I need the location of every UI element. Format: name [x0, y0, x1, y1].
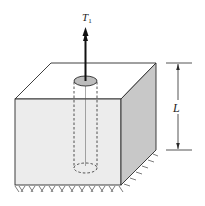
block-front-face [15, 99, 121, 185]
force-label: T1 [82, 11, 92, 25]
block-diagram: T1 L [0, 0, 205, 206]
dimension-arrow-up [176, 64, 180, 70]
dimension-arrow-down [176, 143, 180, 149]
dimension-label: L [172, 101, 180, 115]
